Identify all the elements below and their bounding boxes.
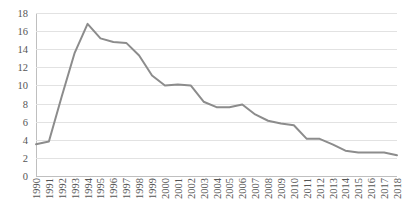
x-tick-label-2013: 2013	[327, 178, 338, 199]
x-tick-label-2008: 2008	[263, 178, 274, 199]
x-tick-label-2004: 2004	[211, 178, 222, 199]
y-tick-label-6: 6	[23, 116, 28, 127]
x-tick-label-2003: 2003	[198, 178, 209, 199]
x-tick-label-2006: 2006	[237, 178, 248, 199]
y-tick-label-16: 16	[18, 26, 29, 37]
y-tick-label-12: 12	[18, 62, 29, 73]
x-tick-label-1996: 1996	[108, 178, 119, 199]
x-tick-label-2012: 2012	[314, 178, 325, 199]
x-tick-label-2015: 2015	[353, 178, 364, 199]
x-tick-label-2016: 2016	[366, 178, 377, 199]
x-tick-label-2005: 2005	[224, 178, 235, 199]
x-tick-label-1990: 1990	[31, 178, 42, 199]
x-tick-label-1997: 1997	[121, 178, 132, 199]
y-tick-label-0: 0	[23, 171, 28, 182]
y-tick-label-18: 18	[18, 8, 29, 19]
x-tick-label-2010: 2010	[288, 178, 299, 199]
gridline-0	[36, 176, 397, 177]
plot-area	[36, 13, 397, 176]
x-tick-label-2002: 2002	[185, 178, 196, 199]
x-tick-label-1998: 1998	[134, 178, 145, 199]
y-tick-label-10: 10	[18, 80, 29, 91]
y-axis-tick-labels: 181614121086420	[0, 0, 34, 190]
series-line	[36, 13, 397, 176]
x-tick-label-1993: 1993	[69, 178, 80, 199]
x-tick-label-2017: 2017	[379, 178, 390, 199]
x-axis-tick-labels: 1990199119921993199419951996199719981999…	[36, 178, 397, 224]
y-tick-label-2: 2	[23, 152, 28, 163]
x-tick-label-1995: 1995	[95, 178, 106, 199]
x-tick-label-1994: 1994	[82, 178, 93, 199]
y-tick-label-8: 8	[23, 98, 28, 109]
x-tick-label-2001: 2001	[172, 178, 183, 199]
x-tick-label-2014: 2014	[340, 178, 351, 199]
x-tick-label-2007: 2007	[250, 178, 261, 199]
x-tick-label-2011: 2011	[301, 178, 312, 199]
x-tick-label-2000: 2000	[159, 178, 170, 199]
x-tick-label-2018: 2018	[392, 178, 403, 199]
x-tick-label-2009: 2009	[275, 178, 286, 199]
y-tick-label-14: 14	[18, 44, 29, 55]
x-tick-label-1999: 1999	[147, 178, 158, 199]
x-tick-label-1991: 1991	[43, 178, 54, 199]
x-tick-label-1992: 1992	[56, 178, 67, 199]
y-tick-label-4: 4	[23, 134, 28, 145]
